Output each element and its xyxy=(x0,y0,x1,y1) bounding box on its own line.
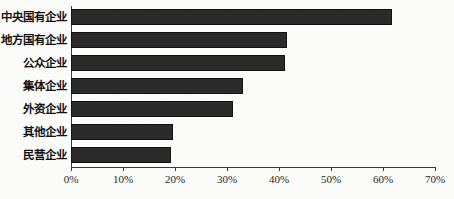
bar xyxy=(71,32,287,48)
x-axis-tick-label: 20% xyxy=(165,173,185,186)
bar-row xyxy=(71,124,173,140)
x-axis-tick xyxy=(383,167,384,171)
x-axis-tick-label: 70% xyxy=(425,173,445,186)
category-label: 公众企业 xyxy=(0,55,67,71)
category-label: 外资企业 xyxy=(0,101,67,117)
x-axis-tick xyxy=(279,167,280,171)
x-axis-tick xyxy=(331,167,332,171)
x-axis-tick xyxy=(175,167,176,171)
x-axis-tick-label: 30% xyxy=(217,173,237,186)
category-label: 民营企业 xyxy=(0,147,67,163)
x-axis-tick-label: 0% xyxy=(64,173,79,186)
category-label: 地方国有企业 xyxy=(0,32,67,48)
x-axis-tick-label: 10% xyxy=(113,173,133,186)
bar xyxy=(71,147,171,163)
bar xyxy=(71,101,233,117)
bar-row xyxy=(71,147,171,163)
bar-row xyxy=(71,9,392,25)
bar xyxy=(71,124,173,140)
x-axis-tick-label: 60% xyxy=(373,173,393,186)
bar-row xyxy=(71,32,287,48)
x-axis-tick-label: 50% xyxy=(321,173,341,186)
x-axis-tick xyxy=(227,167,228,171)
bar xyxy=(71,55,285,71)
category-label: 其他企业 xyxy=(0,124,67,140)
x-axis-tick-label: 40% xyxy=(269,173,289,186)
x-axis-line xyxy=(71,167,436,168)
bar-row xyxy=(71,101,233,117)
bar-row xyxy=(71,78,243,94)
x-axis-tick xyxy=(435,167,436,171)
x-axis-tick xyxy=(71,167,72,171)
bar xyxy=(71,9,392,25)
category-label: 集体企业 xyxy=(0,78,67,94)
bar-chart-figure: 0%10%20%30%40%50%60%70% 中央国有企业地方国有企业公众企业… xyxy=(0,0,454,199)
x-axis-tick xyxy=(123,167,124,171)
bar xyxy=(71,78,243,94)
category-label: 中央国有企业 xyxy=(0,9,67,25)
bar-row xyxy=(71,55,285,71)
